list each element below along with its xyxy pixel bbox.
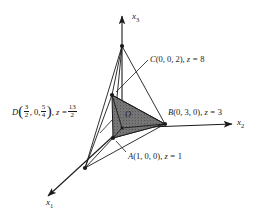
point-C-coords: (0, 0, 2) — [156, 54, 183, 64]
point-D-coord-z-fraction: 5 4 — [41, 104, 47, 120]
point-A-coords: (1, 0, 0) — [133, 151, 160, 161]
point-D-z-fraction: 13 2 — [68, 104, 77, 120]
point-B-coords: (0, 3, 0) — [173, 107, 200, 117]
vertex-B — [163, 122, 167, 126]
point-D-coord-x-denominator: 2 — [24, 111, 30, 119]
point-D-coord-z-denominator: 4 — [41, 111, 47, 119]
vertex-A — [111, 136, 115, 140]
point-C-z-prefix: , z = — [183, 54, 201, 64]
axis-label-x3: x3 — [132, 12, 139, 23]
vertex-C — [120, 44, 124, 48]
point-label-C: C(0, 0, 2), z = 8 — [150, 55, 204, 64]
coordinate-diagram: x3 x2 x1 O C(0, 0, 2), z = 8 B(0, 3, 0),… — [0, 0, 254, 216]
point-D-close-paren: ) — [47, 104, 52, 119]
point-C-z-value: 8 — [200, 54, 204, 64]
vertex-x1-far — [83, 166, 87, 170]
point-A-z-prefix: , z = — [160, 151, 178, 161]
point-D-coord-y: , 0, — [30, 108, 41, 117]
point-D-coord-z-numerator: 5 — [41, 104, 47, 111]
point-label-B: B(0, 3, 0), z = 3 — [168, 108, 222, 117]
vertex-origin — [121, 127, 124, 130]
point-B-z-value: 3 — [218, 107, 222, 117]
axis-x2-sub: 2 — [241, 122, 244, 129]
axis-label-x1: x1 — [46, 198, 53, 209]
axis-x1-sub: 1 — [50, 202, 53, 209]
shaded-triangle — [112, 95, 165, 138]
point-A-z-value: 1 — [178, 151, 182, 161]
point-D-z-numerator: 13 — [68, 104, 77, 111]
vertex-D — [110, 93, 114, 97]
origin-label: O — [125, 110, 131, 119]
point-D-z-prefix: , z = — [52, 108, 67, 117]
point-D-coord-x-fraction: 3 2 — [24, 104, 30, 120]
point-label-A: A(1, 0, 0), z = 1 — [128, 152, 182, 161]
axis-label-x2: x2 — [237, 118, 244, 129]
point-label-D: D ( 3 2 , 0, 5 4 ) , z = 13 2 — [12, 104, 77, 120]
point-B-z-prefix: , z = — [200, 107, 218, 117]
point-D-coord-x-numerator: 3 — [24, 104, 30, 111]
axis-x3-sub: 3 — [136, 16, 139, 23]
point-D-open-paren: ( — [18, 104, 23, 119]
axis-x1 — [48, 128, 122, 196]
point-D-z-denominator: 2 — [68, 111, 77, 119]
